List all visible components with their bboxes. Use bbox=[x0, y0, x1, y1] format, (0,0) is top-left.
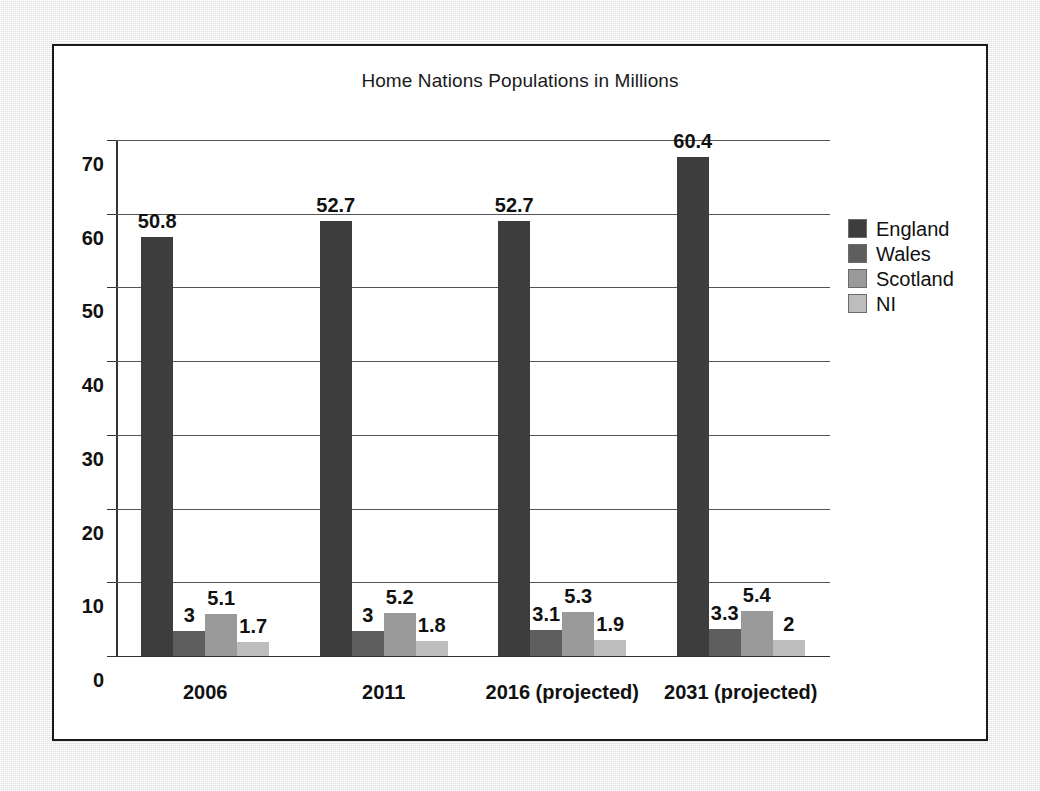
legend-swatch-icon bbox=[848, 219, 867, 238]
bar-ni-2006[interactable] bbox=[237, 642, 269, 656]
bar-wales-2011[interactable] bbox=[352, 631, 384, 656]
chart-panel: Home Nations Populations in Millions 010… bbox=[52, 44, 988, 741]
bar-value-label: 52.7 bbox=[483, 195, 545, 215]
bar-value-label: 1.9 bbox=[579, 614, 641, 634]
bar-england-2006[interactable] bbox=[141, 237, 173, 656]
bar-england-2011[interactable] bbox=[320, 221, 352, 656]
bar-england-2016[interactable] bbox=[498, 221, 530, 656]
bar-value-label: 52.7 bbox=[305, 195, 367, 215]
x-category-label: 2016 (projected) bbox=[473, 682, 652, 702]
x-category-label: 2006 bbox=[116, 682, 295, 702]
y-tick-label-40: 40 bbox=[58, 375, 104, 395]
y-tick-label-50: 50 bbox=[58, 301, 104, 321]
legend-item-ni[interactable]: NI bbox=[848, 291, 954, 316]
legend-label: Wales bbox=[876, 244, 931, 264]
y-tick-label-30: 30 bbox=[58, 449, 104, 469]
bar-group: 60.43.35.42 bbox=[677, 140, 805, 656]
bar-wales-2031[interactable] bbox=[709, 629, 741, 656]
bar-wales-2016[interactable] bbox=[530, 630, 562, 656]
bar-value-label: 5.3 bbox=[547, 586, 609, 606]
y-axis-tick-labels: 010203040506070 bbox=[54, 46, 104, 743]
y-tick-label-20: 20 bbox=[58, 523, 104, 543]
bar-group: 52.73.15.31.9 bbox=[498, 140, 626, 656]
bar-ni-2016[interactable] bbox=[594, 640, 626, 656]
bar-ni-2031[interactable] bbox=[773, 640, 805, 657]
legend-label: England bbox=[876, 219, 949, 239]
bar-group: 52.735.21.8 bbox=[320, 140, 448, 656]
chart-title: Home Nations Populations in Millions bbox=[54, 70, 986, 92]
bar-value-label: 1.8 bbox=[401, 615, 463, 635]
bar-ni-2011[interactable] bbox=[416, 641, 448, 656]
legend-item-scotland[interactable]: Scotland bbox=[848, 266, 954, 291]
x-category-label: 2031 (projected) bbox=[652, 682, 831, 702]
bar-england-2031[interactable] bbox=[677, 157, 709, 656]
gridline-0 bbox=[116, 656, 830, 657]
y-tick-label-60: 60 bbox=[58, 228, 104, 248]
bar-value-label: 60.4 bbox=[662, 131, 724, 151]
bar-value-label: 1.7 bbox=[222, 616, 284, 636]
legend-item-england[interactable]: England bbox=[848, 216, 954, 241]
bar-group: 50.835.11.7 bbox=[141, 140, 269, 656]
legend-item-wales[interactable]: Wales bbox=[848, 241, 954, 266]
y-tick-label-0: 0 bbox=[58, 670, 104, 690]
legend-label: NI bbox=[876, 294, 896, 314]
chart-legend: EnglandWalesScotlandNI bbox=[848, 216, 954, 316]
legend-swatch-icon bbox=[848, 244, 867, 263]
legend-swatch-icon bbox=[848, 269, 867, 288]
bar-value-label: 5.2 bbox=[369, 587, 431, 607]
legend-swatch-icon bbox=[848, 294, 867, 313]
y-tick-label-10: 10 bbox=[58, 596, 104, 616]
bar-wales-2006[interactable] bbox=[173, 631, 205, 656]
legend-label: Scotland bbox=[876, 269, 954, 289]
bar-value-label: 2 bbox=[758, 614, 820, 634]
y-tick-label-70: 70 bbox=[58, 154, 104, 174]
bar-value-label: 50.8 bbox=[126, 211, 188, 231]
x-category-label: 2011 bbox=[295, 682, 474, 702]
plot-area: 50.835.11.752.735.21.852.73.15.31.960.43… bbox=[116, 140, 830, 656]
bar-value-label: 5.4 bbox=[726, 585, 788, 605]
bar-value-label: 5.1 bbox=[190, 588, 252, 608]
